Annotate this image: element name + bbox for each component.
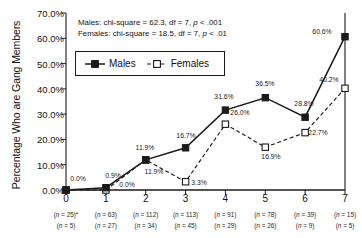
data-label-females: 11.9% [145, 168, 164, 175]
sample-size-females: (n = 27) [95, 222, 117, 229]
data-label-females: 26.0% [230, 109, 249, 116]
chart-legend: Males Females [75, 51, 225, 76]
sample-size-males: (n = 91) [214, 211, 236, 218]
x-tick-label: 7 [342, 193, 348, 204]
sample-size-males: (n = 25)* [54, 211, 79, 218]
sample-size-females: (n = 34) [135, 222, 157, 229]
sample-size-females: (n = 45) [174, 222, 196, 229]
y-tick-marks [61, 13, 66, 190]
x-tick-label: 3 [183, 193, 189, 204]
sample-size-males: (n = 112) [133, 211, 158, 218]
chart-figure: Percentage Who are Gang Members 70.0% 60… [0, 0, 362, 238]
x-tick-label: 4 [223, 193, 229, 204]
data-label-females: 16.9% [261, 153, 280, 160]
x-tick-label: 6 [302, 193, 308, 204]
data-label-males: 0.9% [105, 172, 121, 179]
data-label-males: 28.8% [294, 100, 313, 107]
legend-item-males: Males [85, 58, 136, 69]
legend-item-females: Females [147, 58, 209, 69]
data-label-females: 0.0% [119, 181, 135, 188]
legend-label-females: Females [171, 58, 209, 69]
data-label-males: 11.9% [136, 144, 155, 151]
sample-size-females: (n = 5) [336, 222, 355, 229]
sample-size-females: (n = 9) [296, 222, 315, 229]
data-label-females: 3.3% [191, 179, 207, 186]
legend-marker-females-icon [147, 59, 167, 69]
sample-size-males: (n = 15) [334, 211, 356, 218]
x-tick-label: 1 [103, 193, 109, 204]
sample-size-males: (n = 63) [95, 211, 117, 218]
data-label-males: 0.0% [70, 175, 86, 182]
stats-line-females: Females: chi-square = 18.5, df = 7, p < … [78, 29, 227, 40]
sample-size-females: (n = 5) [57, 222, 76, 229]
stats-annotation: Males: chi-square = 62.3, df = 7, p < .0… [78, 18, 227, 39]
data-label-females: 22.7% [308, 129, 327, 136]
data-label-males: 31.6% [214, 93, 233, 100]
sample-size-females: (n = 29) [214, 222, 236, 229]
x-tick-label: 0 [63, 193, 69, 204]
x-tick-label: 2 [143, 193, 149, 204]
stats-line-males: Males: chi-square = 62.3, df = 7, p < .0… [78, 18, 227, 29]
data-label-males: 16.7% [176, 132, 195, 139]
data-label-males: 60.6% [312, 28, 331, 35]
sample-size-males: (n = 113) [173, 211, 198, 218]
legend-marker-males-icon [85, 59, 105, 69]
legend-label-males: Males [109, 58, 136, 69]
sample-size-males: (n = 39) [294, 211, 316, 218]
x-tick-label: 5 [263, 193, 269, 204]
data-label-females: 40.2% [319, 76, 338, 83]
data-label-males: 36.5% [255, 80, 274, 87]
sample-size-males: (n = 78) [254, 211, 276, 218]
sample-size-females: (n = 26) [254, 222, 276, 229]
